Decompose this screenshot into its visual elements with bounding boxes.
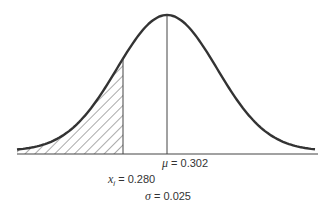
- mean-label: μ = 0.302: [162, 156, 208, 171]
- mean-value: = 0.302: [168, 157, 208, 169]
- bell-curve: [17, 15, 315, 150]
- sigma-label: σ = 0.025: [145, 189, 191, 204]
- xi-value: = 0.280: [115, 173, 155, 185]
- shaded-tail-region: [17, 59, 123, 154]
- xi-label: xi = 0.280: [108, 172, 155, 188]
- normal-curve-diagram: [0, 0, 328, 212]
- sigma-value: = 0.025: [151, 190, 191, 202]
